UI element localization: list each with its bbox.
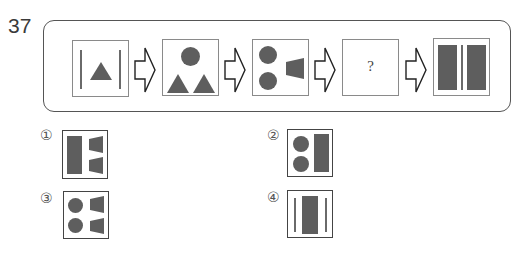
arrow-right-icon	[134, 47, 156, 93]
sequence-box-2	[162, 39, 219, 96]
rectangle-shape	[438, 45, 457, 90]
rectangle-shape	[467, 45, 486, 90]
option-3-label: ③	[40, 190, 53, 206]
option-1-label: ①	[40, 127, 53, 143]
rectangle-shape	[302, 196, 318, 234]
question-number: 37	[8, 14, 31, 38]
triangle-icon	[90, 62, 112, 80]
vertical-line	[325, 198, 327, 232]
option-2[interactable]	[287, 129, 333, 177]
circle-shape	[68, 218, 83, 233]
circle-shape	[181, 47, 200, 66]
trapezoid-icon	[89, 136, 103, 153]
circle-shape	[259, 46, 277, 64]
option-3[interactable]	[63, 191, 109, 239]
arrow-right-icon	[224, 47, 246, 93]
trapezoid-icon	[89, 157, 103, 174]
option-2-label: ②	[267, 127, 280, 143]
sequence-box-5	[433, 38, 490, 96]
triangle-icon	[193, 74, 215, 93]
arrow-right-icon	[314, 47, 336, 93]
vertical-line	[119, 50, 121, 89]
circle-shape	[68, 198, 83, 213]
option-4[interactable]	[287, 190, 333, 238]
circle-shape	[293, 156, 309, 172]
option-4-label: ④	[267, 189, 280, 205]
rectangle-shape	[67, 136, 82, 174]
triangle-icon	[167, 74, 189, 93]
question-mark: ?	[343, 58, 398, 75]
rectangle-shape	[314, 134, 329, 172]
sequence-box-3	[252, 39, 309, 96]
trapezoid-icon	[90, 218, 104, 234]
vertical-line	[294, 198, 296, 232]
sequence-box-1	[72, 40, 129, 97]
circle-shape	[293, 136, 309, 152]
sequence-box-unknown: ?	[342, 39, 399, 96]
arrow-right-icon	[405, 47, 427, 93]
trapezoid-icon	[90, 196, 104, 213]
trapezoid-icon	[286, 58, 304, 79]
vertical-line	[80, 50, 82, 89]
vertical-line	[461, 45, 463, 90]
option-1[interactable]	[62, 130, 108, 179]
circle-shape	[259, 72, 277, 90]
